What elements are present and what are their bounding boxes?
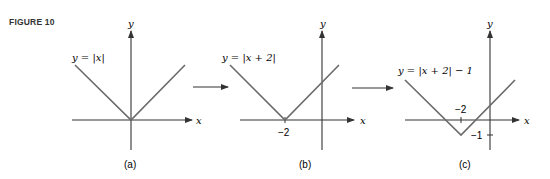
panel-b: y x y = |x + 2| −2 (b) [221, 18, 366, 170]
y-axis-label: y [486, 18, 493, 29]
panel-c: y x y = |x + 2| − 1 −2 −1 (c) [397, 18, 530, 170]
equation-label: y = |x + 2| [221, 52, 276, 64]
equation-label: y = |x + 2| − 1 [397, 65, 473, 77]
panel-caption: (c) [459, 159, 471, 170]
x-axis-label: x [360, 115, 366, 126]
panel-caption: (b) [299, 159, 311, 170]
equation-label: y = |x| [71, 52, 105, 64]
tick-label-minus-2: −2 [455, 104, 467, 115]
tick-label-minus-2: −2 [278, 127, 290, 138]
x-axis-label: x [524, 115, 530, 126]
abs-graph [75, 65, 185, 120]
tick-label-minus-1: −1 [471, 130, 483, 141]
panel-a: y x y = |x| (a) [71, 18, 202, 170]
figure-canvas: y x y = |x| (a) y x y = |x + 2| −2 (b) y… [0, 0, 550, 179]
x-axis-label: x [196, 115, 202, 126]
shifted-abs-graph [230, 65, 339, 120]
y-axis-label: y [127, 18, 134, 29]
panel-caption: (a) [124, 159, 136, 170]
y-axis-label: y [319, 18, 326, 29]
